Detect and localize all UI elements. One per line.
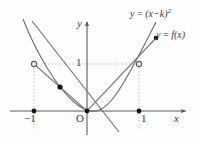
y-axis-label: y [77,18,82,29]
y-tick-label-1: 1 [76,57,82,68]
x-tick-label-1: 1 [141,113,147,124]
parabola-label-text: y = (x−k) [130,8,167,19]
function-polyline [34,38,156,111]
open-point-neg1-1 [31,61,36,66]
math-graph-figure: y = (x−k)2 y = f(x) y x 1 −1 1 O [0,0,200,144]
x-axis-arrow-icon [181,109,186,113]
open-point-1-1 [136,61,141,66]
filled-point-origin [85,109,90,114]
function-label: y = f(x) [156,30,185,40]
filled-point-midchord [57,84,62,89]
y-axis-arrow-icon [85,21,89,26]
x-tick-label-neg1: −1 [24,113,36,124]
origin-label: O [76,113,84,124]
x-axis-label: x [174,113,179,124]
parabola-label-exponent: 2 [167,7,171,15]
parabola-label: y = (x−k)2 [130,8,171,19]
